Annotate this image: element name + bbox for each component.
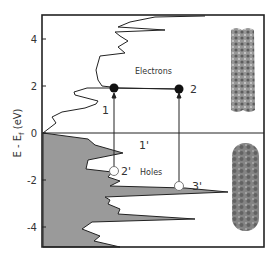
ylabel-unit: (eV) bbox=[12, 108, 23, 132]
hole-orbital-nanotube-inset bbox=[232, 143, 259, 231]
ytick-4: 4 bbox=[31, 34, 37, 45]
arrow-head-icon bbox=[112, 93, 116, 98]
state-3p-label: 3' bbox=[192, 180, 202, 193]
state-2-label: 2 bbox=[190, 83, 197, 96]
electrons-label: Electrons bbox=[135, 67, 172, 76]
state-1-label: 1 bbox=[102, 104, 109, 117]
conduction-dos-curve bbox=[43, 16, 205, 133]
electron-state-2-marker bbox=[175, 85, 184, 94]
dos-diagram: 4 2 0 -2 -4 E - Ef (eV) Electrons Holes … bbox=[0, 0, 280, 260]
y-axis-label: E - Ef (eV) bbox=[12, 108, 26, 157]
ytick-neg4: -4 bbox=[27, 222, 37, 233]
ytick-neg2: -2 bbox=[27, 175, 37, 186]
ytick-0: 0 bbox=[31, 128, 37, 139]
holes-label: Holes bbox=[140, 168, 162, 177]
arrow-head-icon bbox=[177, 93, 181, 98]
state-1p-label: 1' bbox=[139, 139, 149, 152]
electron-state-1-marker bbox=[110, 84, 119, 93]
state-2p-label: 2' bbox=[121, 165, 131, 178]
ylabel-main: E - E bbox=[12, 135, 23, 158]
svg-text:E - Ef (eV): E - Ef (eV) bbox=[12, 108, 26, 157]
ytick-2: 2 bbox=[31, 81, 37, 92]
hole-state-2p-marker bbox=[110, 167, 119, 176]
hole-state-3p-marker bbox=[175, 182, 184, 191]
electron-orbital-nanotube-inset bbox=[231, 28, 255, 112]
